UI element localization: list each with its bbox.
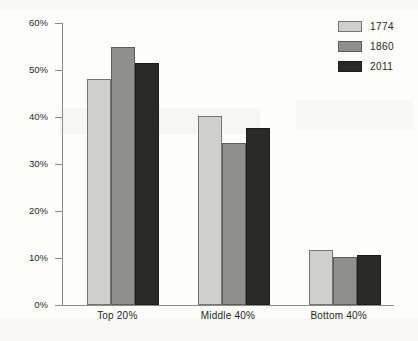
bar-1860-top-20: [111, 47, 135, 306]
x-axis-group-label: Middle 40%: [173, 310, 284, 321]
chart-legend: 177418602011: [338, 18, 412, 78]
bar-1774-bottom-40: [309, 250, 333, 305]
bar-2011-top-20: [135, 63, 159, 305]
y-axis-tick: [55, 70, 62, 71]
y-axis-tick-label-text: 20%: [29, 205, 48, 216]
y-axis-tick-label: 50%: [0, 70, 52, 71]
bar-1860-middle-40: [222, 143, 246, 305]
legend-item-2011: 2011: [338, 58, 412, 75]
x-axis-group-label: Top 20%: [62, 310, 173, 321]
x-axis-line: [62, 305, 394, 306]
y-axis-tick-label: 60%: [0, 23, 52, 24]
y-axis-tick-label-text: 60%: [29, 17, 48, 28]
y-axis-tick-label-text: 0%: [34, 299, 48, 310]
legend-item-label: 1774: [370, 21, 394, 32]
bar-chart: 0%10%20%30%40%50%60% Top 20%Middle 40%Bo…: [0, 0, 418, 341]
bar-1774-middle-40: [198, 116, 222, 305]
y-axis-tick: [55, 258, 62, 259]
y-axis-tick-label-text: 50%: [29, 64, 48, 75]
legend-swatch-1860: [338, 41, 362, 52]
legend-item-label: 1860: [370, 41, 394, 52]
x-axis-group-label: Bottom 40%: [283, 310, 394, 321]
y-axis-tick: [55, 305, 62, 306]
bar-2011-middle-40: [246, 128, 270, 305]
bar-2011-bottom-40: [357, 255, 381, 305]
legend-swatch-1774: [338, 21, 362, 32]
y-axis-tick-label: 40%: [0, 117, 52, 118]
bar-1774-top-20: [87, 79, 111, 305]
y-axis-tick-label: 30%: [0, 164, 52, 165]
paper-texture: [0, 318, 418, 341]
paper-texture: [0, 0, 418, 10]
legend-item-1774: 1774: [338, 18, 412, 35]
y-axis-tick-label-text: 10%: [29, 252, 48, 263]
y-axis-tick-label: 20%: [0, 211, 52, 212]
y-axis-tick: [55, 23, 62, 24]
y-axis-tick: [55, 211, 62, 212]
y-axis-tick-label-text: 40%: [29, 111, 48, 122]
y-axis-tick-label: 10%: [0, 258, 52, 259]
legend-item-1860: 1860: [338, 38, 412, 55]
y-axis-tick-label-text: 30%: [29, 158, 48, 169]
legend-swatch-2011: [338, 61, 362, 72]
y-axis-tick: [55, 164, 62, 165]
y-axis-tick: [55, 117, 62, 118]
y-axis-tick-label: 0%: [0, 305, 52, 306]
bar-1860-bottom-40: [333, 257, 357, 305]
legend-item-label: 2011: [370, 61, 393, 72]
